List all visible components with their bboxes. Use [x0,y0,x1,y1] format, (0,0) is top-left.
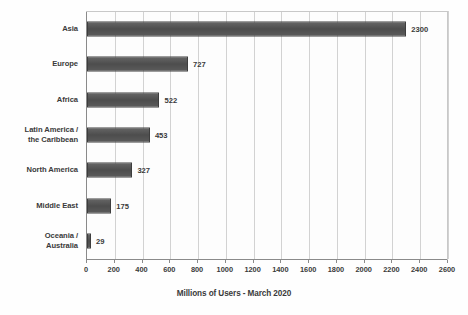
x-tick-mark [336,260,337,263]
x-tick-mark [169,260,170,263]
category-label-line: Latin America / [0,125,78,135]
plot-frame-right-border [447,11,448,260]
gridline [254,11,255,259]
x-tick-mark [280,260,281,263]
x-tick-label: 600 [163,265,175,274]
category-label-line: Australia [0,241,78,251]
bar [87,128,150,143]
gridline [226,11,227,259]
bar [87,198,111,213]
gridline [448,11,449,259]
category-label-line: Oceania / [0,232,78,242]
x-tick-mark [253,260,254,263]
x-tick-label: 0 [84,265,88,274]
plot-frame-top-border [86,11,447,12]
category-label: Middle East [0,201,78,211]
x-tick-label: 1200 [244,265,260,274]
x-tick-mark [225,260,226,263]
gridline [170,11,171,259]
bar-value-label: 2300 [411,24,428,33]
x-tick-mark [86,260,87,263]
x-tick-mark [308,260,309,263]
category-label-line: North America [0,166,78,176]
x-tick-label: 1000 [217,265,233,274]
x-tick-mark [114,260,115,263]
x-tick-label: 2600 [439,265,455,274]
category-label: Europe [0,59,78,69]
bar [87,21,406,36]
x-tick-label: 1400 [272,265,288,274]
x-axis-title: Millions of Users - March 2020 [0,289,468,298]
gridline [420,11,421,259]
category-label-line: Europe [0,59,78,69]
x-tick-label: 1600 [300,265,316,274]
bar-value-label: 453 [155,131,168,140]
category-label-line: the Caribbean [0,135,78,145]
category-label: Oceania /Australia [0,232,78,251]
x-tick-label: 400 [135,265,147,274]
x-tick-label: 2400 [411,265,427,274]
bar [87,92,159,107]
category-label: Asia [0,24,78,34]
category-label-line: Africa [0,95,78,105]
x-tick-mark [447,260,448,263]
bar-value-label: 29 [96,237,104,246]
gridline [392,11,393,259]
x-tick-mark [142,260,143,263]
x-tick-label: 2000 [355,265,371,274]
gridline [198,11,199,259]
x-tick-label: 800 [191,265,203,274]
plot-area: 230072752245332717529 [86,11,448,260]
category-label: Africa [0,95,78,105]
x-tick-label: 200 [108,265,120,274]
category-label-line: Asia [0,24,78,34]
category-label: Latin America /the Caribbean [0,125,78,144]
gridline [337,11,338,259]
x-tick-label: 1800 [328,265,344,274]
x-tick-mark [391,260,392,263]
gridline [281,11,282,259]
bar-value-label: 175 [116,201,129,210]
bar-value-label: 522 [164,95,177,104]
x-tick-mark [197,260,198,263]
gridline [365,11,366,259]
gridline [309,11,310,259]
category-axis: AsiaEuropeAfricaLatin America /the Carib… [0,11,82,259]
x-tick-mark [419,260,420,263]
bar-value-label: 327 [137,166,150,175]
bar-value-label: 727 [193,60,206,69]
bar [87,234,91,249]
category-label: North America [0,166,78,176]
category-label-line: Middle East [0,201,78,211]
bar [87,57,188,72]
bar-chart-figure: AsiaEuropeAfricaLatin America /the Carib… [0,0,468,315]
x-tick-mark [364,260,365,263]
bar [87,163,132,178]
x-tick-label: 2200 [383,265,399,274]
